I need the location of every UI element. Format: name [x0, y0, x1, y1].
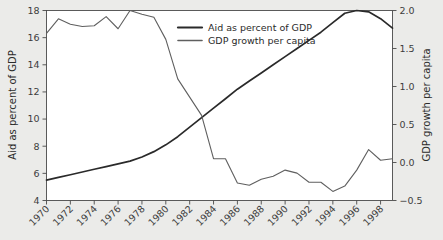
y-tick-label-right-2: 0.5: [400, 119, 415, 130]
y-tick-label-left-10: 10: [27, 113, 39, 124]
y-tick-label-left-14: 14: [27, 59, 39, 70]
y-tick-label-right-4: 1.5: [400, 43, 415, 54]
y-tick-label-right-5: 2.0: [400, 5, 415, 16]
y-tick-label-right-0: −0.5: [400, 195, 423, 206]
chart-figure: 4681012141618 −0.50.00.51.01.52.0 197019…: [0, 0, 443, 240]
y-tick-label-right-1: 0.0: [400, 157, 415, 168]
legend-label-aid: Aid as percent of GDP: [208, 22, 312, 33]
y-tick-label-right-3: 1.0: [400, 81, 415, 92]
y-axis-right-title: GDP growth per capita: [421, 48, 432, 161]
y-tick-label-left-12: 12: [27, 86, 39, 97]
y-tick-label-left-4: 4: [33, 195, 39, 206]
y-axis-left-title: Aid as percent of GDP: [7, 50, 18, 159]
chart-canvas: 4681012141618 −0.50.00.51.01.52.0 197019…: [0, 0, 443, 240]
y-tick-label-left-18: 18: [27, 5, 39, 16]
y-tick-label-left-16: 16: [27, 32, 39, 43]
y-tick-label-left-6: 6: [33, 168, 39, 179]
legend-label-growth: GDP growth per capita: [208, 35, 316, 46]
y-tick-label-left-8: 8: [33, 141, 39, 152]
